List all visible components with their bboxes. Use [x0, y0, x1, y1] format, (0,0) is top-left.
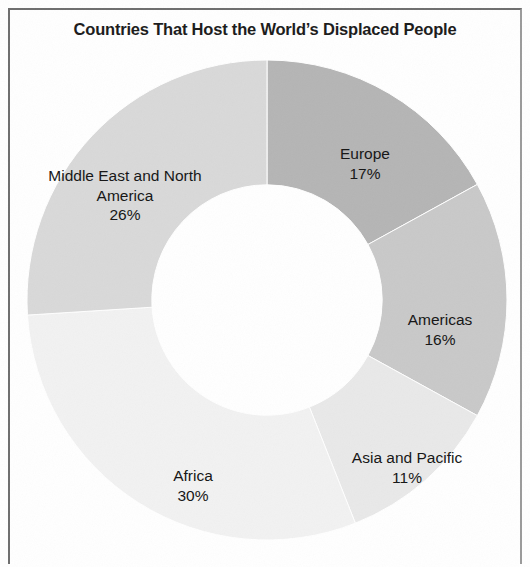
slice-label-asia-and-pacific-value: 11%	[328, 468, 486, 488]
slice-label-europe: Europe 17%	[306, 124, 424, 203]
slice-label-europe-value: 17%	[306, 164, 424, 184]
slice-label-americas: Americas 16%	[378, 290, 502, 369]
slice-label-middle-east-and-north-america: Middle East and North America 26%	[22, 146, 228, 245]
slice-label-asia-and-pacific-name: Asia and Pacific	[352, 449, 462, 466]
slice-label-africa-name: Africa	[173, 467, 213, 484]
slice-label-middle-east-and-north-america-name: Middle East and North America	[48, 167, 201, 204]
figure-container: Countries That Host the World’s Displace…	[0, 0, 530, 567]
donut-chart: Europe 17% Americas 16% Asia and Pacific…	[0, 0, 530, 567]
slice-label-asia-and-pacific: Asia and Pacific 11%	[328, 428, 486, 507]
slice-label-africa: Africa 30%	[128, 446, 258, 525]
slice-label-europe-name: Europe	[340, 145, 390, 162]
slice-label-middle-east-and-north-america-value: 26%	[22, 205, 228, 225]
slice-label-americas-value: 16%	[378, 330, 502, 350]
slice-label-americas-name: Americas	[408, 311, 473, 328]
slice-label-africa-value: 30%	[128, 486, 258, 506]
